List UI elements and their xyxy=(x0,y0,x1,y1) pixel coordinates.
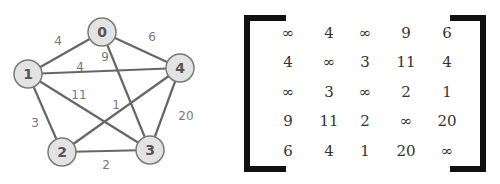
edge-1-3 xyxy=(28,74,150,150)
edge-weight-label: 11 xyxy=(71,88,86,102)
graph-node-3: 3 xyxy=(136,136,164,164)
matrix-cell-1-0: 4 xyxy=(266,53,310,71)
node-label: 1 xyxy=(23,66,33,82)
edge-weight-label: 2 xyxy=(102,158,110,172)
right-bracket-bottom xyxy=(450,166,486,172)
node-label: 0 xyxy=(97,24,107,40)
left-bracket-vertical xyxy=(244,15,250,172)
graph-node-1: 1 xyxy=(14,60,42,88)
weighted-graph: 4694113122001234 xyxy=(0,0,220,184)
graph-node-0: 0 xyxy=(88,18,116,46)
matrix-cell-2-4: 1 xyxy=(425,83,469,101)
node-label: 3 xyxy=(145,142,155,158)
graph-node-2: 2 xyxy=(48,138,76,166)
edge-weight-label: 1 xyxy=(112,98,120,112)
edge-weight-label: 9 xyxy=(101,50,109,64)
left-bracket-bottom xyxy=(244,166,286,172)
matrix-cell-3-4: 20 xyxy=(425,112,469,130)
matrix-cell-1-3: 11 xyxy=(384,53,428,71)
right-bracket-vertical xyxy=(480,15,486,172)
matrix-cell-0-2: ∞ xyxy=(343,24,387,42)
left-bracket-top xyxy=(244,15,286,21)
matrix-cell-1-2: 3 xyxy=(343,53,387,71)
edge-weight-label: 20 xyxy=(178,109,193,123)
edge-weight-label: 6 xyxy=(148,30,156,44)
matrix-cell-2-0: ∞ xyxy=(266,83,310,101)
edge-1-4 xyxy=(28,68,180,74)
matrix-cell-4-2: 1 xyxy=(343,142,387,160)
matrix-cell-0-4: 6 xyxy=(425,24,469,42)
right-bracket-top xyxy=(450,15,486,21)
matrix-cell-3-3: ∞ xyxy=(384,112,428,130)
matrix-cell-4-3: 20 xyxy=(384,142,428,160)
matrix-cell-4-4: ∞ xyxy=(425,142,469,160)
matrix-cell-3-0: 9 xyxy=(266,112,310,130)
matrix-cell-4-0: 6 xyxy=(266,142,310,160)
node-label: 2 xyxy=(57,144,67,160)
matrix-cell-0-3: 9 xyxy=(384,24,428,42)
matrix-cell-2-2: ∞ xyxy=(343,83,387,101)
adjacency-matrix: ∞4∞964∞3114∞3∞219112∞2064120∞ xyxy=(230,0,500,184)
matrix-cell-3-2: 2 xyxy=(343,112,387,130)
matrix-cell-1-4: 4 xyxy=(425,53,469,71)
matrix-cell-2-3: 2 xyxy=(384,83,428,101)
node-label: 4 xyxy=(175,60,185,76)
edge-weight-label: 4 xyxy=(76,60,84,74)
matrix-cell-0-0: ∞ xyxy=(266,24,310,42)
graph-node-4: 4 xyxy=(166,54,194,82)
edge-weight-label: 4 xyxy=(54,34,62,48)
edge-weight-label: 3 xyxy=(31,116,39,130)
